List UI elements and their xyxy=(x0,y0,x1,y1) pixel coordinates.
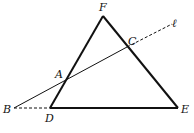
label-a: A xyxy=(54,68,63,81)
label-d: D xyxy=(44,112,54,125)
label-c: C xyxy=(128,35,137,48)
segment-df xyxy=(50,16,103,108)
label-e: E xyxy=(180,103,189,116)
segment-bc xyxy=(14,47,127,108)
label-b: B xyxy=(2,103,11,116)
segment-fe xyxy=(103,16,178,108)
label-line-l: ℓ xyxy=(172,17,177,30)
label-f: F xyxy=(98,1,107,14)
geometry-diagram: F C A B D E ℓ xyxy=(0,0,194,133)
